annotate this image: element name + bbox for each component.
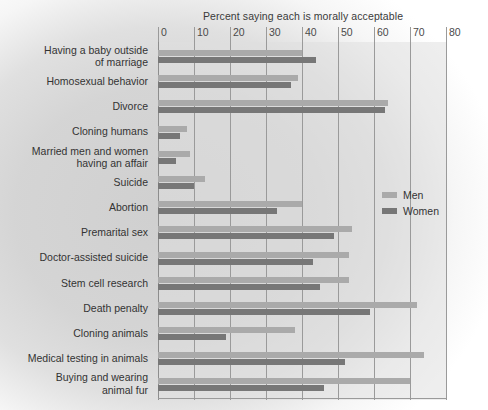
gridline-0 [158,42,159,400]
bar-men-1 [158,75,298,81]
bar-men-4 [158,151,190,157]
category-label-3: Cloning humans [0,125,148,137]
bar-men-5 [158,176,205,182]
bar-women-1 [158,82,291,88]
plot-area [158,42,446,400]
bar-women-8 [158,259,313,265]
bar-men-12 [158,352,424,358]
x-axis-tick-row: 01020304050607080 [158,26,458,42]
category-label-6: Abortion [0,201,148,213]
page-title: Percent saying each is morally acceptabl… [158,10,448,22]
x-tick-label-40: 40 [302,26,317,38]
gridline-30 [266,42,267,400]
gridline-50 [338,42,339,400]
bar-men-6 [158,201,302,207]
category-label-11: Cloning animals [0,327,148,339]
bar-women-5 [158,183,194,189]
bar-women-9 [158,284,320,290]
legend-swatch-men [382,192,397,198]
gridline-70 [410,42,411,400]
bar-men-10 [158,302,417,308]
bar-women-0 [158,57,316,63]
bar-women-7 [158,233,334,239]
bar-men-0 [158,50,302,56]
legend-swatch-women [382,208,397,214]
bar-men-9 [158,277,349,283]
category-label-5: Suicide [0,176,148,188]
x-tick-label-50: 50 [338,26,353,38]
gridline-80 [446,42,447,400]
category-label-7: Premarital sex [0,226,148,238]
bar-men-3 [158,126,187,132]
x-tick-label-70: 70 [410,26,425,38]
bar-women-3 [158,133,180,139]
x-tick-label-0: 0 [158,26,167,38]
bar-women-2 [158,107,385,113]
category-label-column: Having a baby outsideof marriageHomosexu… [0,42,152,400]
bar-chart-figure: Percent saying each is morally acceptabl… [0,0,488,410]
x-tick-label-20: 20 [230,26,245,38]
gridline-40 [302,42,303,400]
x-tick-label-30: 30 [266,26,281,38]
bar-women-13 [158,385,324,391]
legend-label-men: Men [403,189,423,201]
bar-men-11 [158,327,295,333]
category-label-9: Stem cell research [0,277,148,289]
bar-women-11 [158,334,226,340]
x-tick-label-10: 10 [194,26,209,38]
chart-legend: MenWomen [382,188,462,220]
category-label-1: Homosexual behavior [0,75,148,87]
x-tick-label-80: 80 [446,26,461,38]
category-label-12: Medical testing in animals [0,352,148,364]
gridline-10 [194,42,195,400]
bar-men-7 [158,226,352,232]
category-label-8: Doctor-assisted suicide [0,251,148,263]
bar-women-6 [158,208,277,214]
category-label-2: Divorce [0,100,148,112]
legend-label-women: Women [403,205,439,217]
bar-men-2 [158,100,388,106]
category-label-0: Having a baby outsideof marriage [0,44,148,69]
bar-women-12 [158,359,345,365]
legend-item-men: Men [382,188,462,202]
category-label-13: Buying and wearinganimal fur [0,371,148,396]
bar-women-4 [158,158,176,164]
axis-baseline [158,398,446,399]
bar-women-10 [158,309,370,315]
gridline-60 [374,42,375,400]
bar-men-13 [158,378,410,384]
category-label-4: Married men and womenhaving an affair [0,145,148,170]
bar-men-8 [158,252,349,258]
x-tick-label-60: 60 [374,26,389,38]
legend-item-women: Women [382,204,462,218]
category-label-10: Death penalty [0,302,148,314]
gridline-20 [230,42,231,400]
